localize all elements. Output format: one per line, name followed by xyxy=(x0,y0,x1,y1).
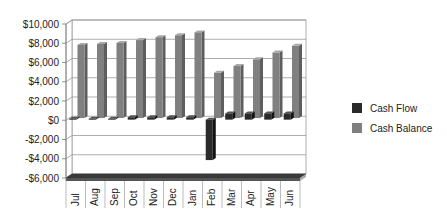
svg-text:Sep: Sep xyxy=(109,188,120,206)
svg-text:$0: $0 xyxy=(48,115,60,126)
legend-item-cash-flow: Cash Flow xyxy=(352,98,432,118)
svg-text:Dec: Dec xyxy=(167,188,178,206)
svg-text:Mar: Mar xyxy=(226,188,237,206)
svg-text:-$6,000: -$6,000 xyxy=(25,173,59,184)
legend-swatch-cash-flow xyxy=(352,103,362,113)
svg-text:Aug: Aug xyxy=(89,188,100,206)
svg-text:$2,000: $2,000 xyxy=(28,96,59,107)
legend-swatch-cash-balance xyxy=(352,123,362,133)
svg-text:$8,000: $8,000 xyxy=(28,38,59,49)
svg-text:Jan: Jan xyxy=(187,190,198,206)
legend-label: Cash Flow xyxy=(370,103,417,114)
svg-text:$4,000: $4,000 xyxy=(28,76,59,87)
svg-text:May: May xyxy=(265,187,276,206)
svg-text:Apr: Apr xyxy=(245,190,256,206)
legend-label: Cash Balance xyxy=(370,123,432,134)
svg-text:Oct: Oct xyxy=(128,190,139,206)
svg-text:Feb: Feb xyxy=(206,188,217,206)
svg-text:Jul: Jul xyxy=(70,193,81,206)
svg-text:-$4,000: -$4,000 xyxy=(25,153,59,164)
chart-legend: Cash Flow Cash Balance xyxy=(352,98,432,138)
svg-text:-$2,000: -$2,000 xyxy=(25,134,59,145)
svg-text:$10,000: $10,000 xyxy=(23,19,60,30)
svg-text:Nov: Nov xyxy=(148,188,159,206)
svg-text:$6,000: $6,000 xyxy=(28,57,59,68)
legend-item-cash-balance: Cash Balance xyxy=(352,118,432,138)
svg-text:Jun: Jun xyxy=(284,190,295,206)
